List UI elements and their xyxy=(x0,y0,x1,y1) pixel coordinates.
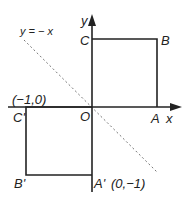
vertex-c-prime-label: C' xyxy=(13,111,25,124)
mirror-line-label: y = − x xyxy=(20,26,53,37)
vertex-b-label: B xyxy=(161,34,170,47)
origin-label: O xyxy=(80,110,90,123)
vertex-a-prime-label: A' xyxy=(94,177,105,190)
vertex-b-prime-label: B' xyxy=(14,177,25,190)
square-oabc xyxy=(92,39,157,107)
y-axis-arrow-icon xyxy=(88,14,96,26)
vertex-a-label: A xyxy=(151,112,160,125)
a-prime-coordinate: (0,−1) xyxy=(111,177,145,190)
x-axis-label: x xyxy=(166,112,173,125)
c-prime-coordinate: (−1,0) xyxy=(12,93,46,106)
y-axis-label: y xyxy=(81,14,88,27)
reflection-diagram: y = − x y x O C B A (−1,0) C' B' A' (0,−… xyxy=(0,0,190,201)
x-axis-arrow-icon xyxy=(170,103,182,111)
vertex-c-label: C xyxy=(80,34,89,47)
